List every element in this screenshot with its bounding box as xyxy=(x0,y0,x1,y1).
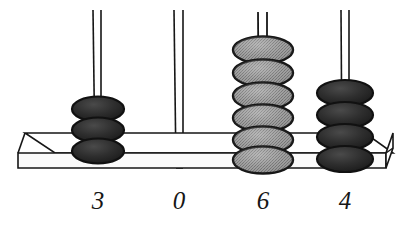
rod-3-label: 6 xyxy=(243,188,283,213)
rod-2-label: 0 xyxy=(159,188,199,213)
rod-1-label: 3 xyxy=(78,188,118,213)
rod-3-beads xyxy=(233,37,293,174)
board-left-bevel xyxy=(18,133,25,153)
rod-1-beads xyxy=(72,97,124,164)
abacus-figure: 3 0 6 4 xyxy=(0,0,410,225)
bead xyxy=(72,139,124,164)
bead xyxy=(233,147,293,174)
bead xyxy=(317,146,373,172)
rod-4-label: 4 xyxy=(325,188,365,213)
rod-4-beads xyxy=(317,80,373,172)
